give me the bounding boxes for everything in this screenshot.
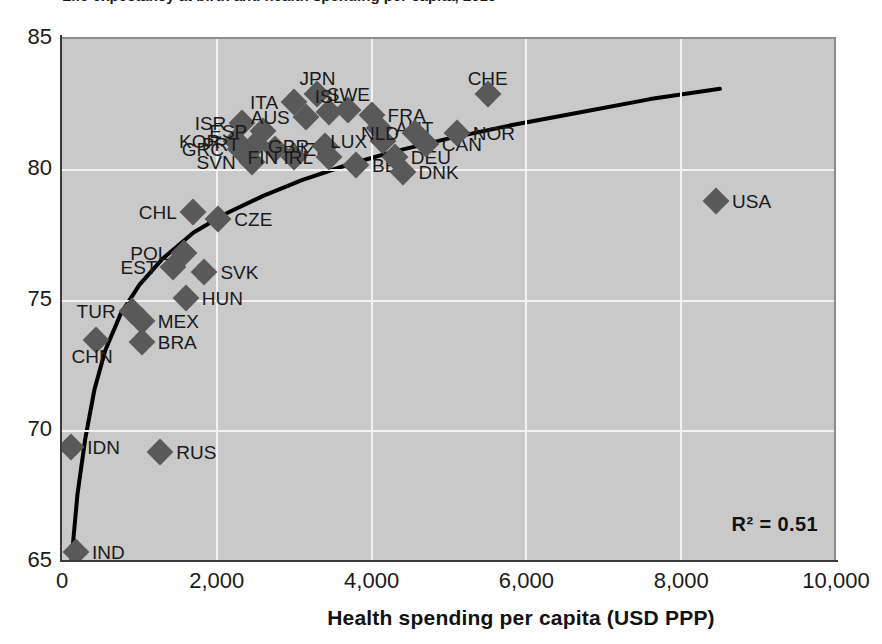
data-point-marker[interactable] xyxy=(147,439,174,466)
data-point-label: IND xyxy=(92,542,125,560)
data-point-label: IRL xyxy=(283,147,313,166)
data-point-label: CHL xyxy=(139,202,177,221)
scatter-plot-area: R² = 0.51 INDIDNRUSCHNBRATURMEXHUNESTSVK… xyxy=(62,37,836,560)
data-point-label: SVK xyxy=(220,262,258,281)
data-point-marker[interactable] xyxy=(172,284,199,311)
data-point-marker[interactable] xyxy=(703,188,730,215)
data-point-label: NLD xyxy=(361,124,399,143)
x-axis-tick-label: 10,000 xyxy=(802,570,869,592)
y-axis-tick-label: 80 xyxy=(8,157,52,179)
x-axis-line xyxy=(60,560,838,562)
data-point-marker[interactable] xyxy=(62,434,85,461)
x-axis-tick-label: 4,000 xyxy=(344,570,399,592)
data-point-label: AUS xyxy=(251,108,290,127)
data-point-label: NOR xyxy=(473,124,515,143)
data-point-label: POL xyxy=(130,244,168,263)
data-point-label: IDN xyxy=(87,437,120,456)
data-point-label: ESP xyxy=(209,121,247,140)
x-axis-tick-label: 8,000 xyxy=(654,570,709,592)
data-point-label: CZE xyxy=(234,210,272,229)
x-axis-tick-label: 2,000 xyxy=(189,570,244,592)
data-point-label: BRA xyxy=(158,333,197,352)
gridline-horizontal xyxy=(62,430,834,432)
data-point-label: DNK xyxy=(419,163,459,182)
r-squared-annotation: R² = 0.51 xyxy=(732,513,818,536)
y-axis-tick-labels: 6570758085 xyxy=(0,0,52,644)
data-point-label: HUN xyxy=(202,288,243,307)
x-axis-tick-label: 0 xyxy=(56,570,68,592)
data-point-label: CHN xyxy=(71,346,112,365)
y-axis-tick-label: 85 xyxy=(8,26,52,48)
data-point-label: CHE xyxy=(468,68,508,87)
data-point-label: MEX xyxy=(158,312,199,331)
data-point-label: TUR xyxy=(77,301,116,320)
data-point-marker[interactable] xyxy=(205,206,232,233)
data-point-label: RUS xyxy=(176,443,216,462)
x-axis-title: Health spending per capita (USD PPP) xyxy=(0,606,882,630)
data-point-marker[interactable] xyxy=(343,151,370,178)
gridline-vertical xyxy=(835,39,836,560)
data-point-marker[interactable] xyxy=(62,538,89,560)
data-point-marker[interactable] xyxy=(179,198,206,225)
data-point-label: SWE xyxy=(327,84,370,103)
x-axis-tick-label: 6,000 xyxy=(499,570,554,592)
y-axis-tick-label: 70 xyxy=(8,418,52,440)
cut-off-chart-title: Life expectancy at birth and health spen… xyxy=(0,0,882,10)
y-axis-tick-label: 75 xyxy=(8,288,52,310)
data-point-label: USA xyxy=(732,192,771,211)
y-axis-tick-label: 65 xyxy=(8,549,52,571)
data-point-marker[interactable] xyxy=(191,258,218,285)
